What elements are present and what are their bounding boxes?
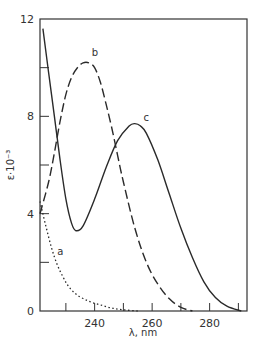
plot-border bbox=[40, 19, 247, 311]
uv-absorption-chart: 24026028004812 abc λ, nm ε·10⁻³ bbox=[0, 0, 265, 355]
axis-ticks bbox=[40, 68, 238, 311]
y-axis-label: ε·10⁻³ bbox=[5, 150, 16, 181]
x-tick-label: 280 bbox=[199, 317, 220, 330]
x-tick-label: 240 bbox=[84, 317, 105, 330]
y-tick-label: 0 bbox=[27, 305, 34, 318]
curve-label-c: c bbox=[144, 112, 150, 123]
curve-label-b: b bbox=[92, 47, 98, 58]
y-tick-label: 8 bbox=[27, 110, 34, 123]
curve-labels: abc bbox=[57, 47, 149, 258]
plot-frame bbox=[40, 19, 247, 311]
curve-c bbox=[43, 29, 241, 311]
curve-a bbox=[40, 202, 138, 312]
y-tick-label: 12 bbox=[20, 13, 34, 26]
curves bbox=[40, 29, 241, 311]
y-tick-label: 4 bbox=[27, 208, 34, 221]
x-axis-label: λ, nm bbox=[129, 327, 157, 338]
curve-b bbox=[40, 62, 192, 311]
tick-labels: 24026028004812 bbox=[20, 13, 220, 330]
curve-label-a: a bbox=[57, 246, 63, 257]
